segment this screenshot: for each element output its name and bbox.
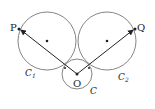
intersection-dot-left <box>64 67 66 69</box>
vector-oq <box>77 30 133 74</box>
label-c2: C2 <box>118 72 129 83</box>
intersection-dot-right <box>88 67 90 69</box>
point-o-dot <box>76 73 79 76</box>
label-c1: C1 <box>25 68 36 79</box>
center-dot-c2 <box>106 40 109 43</box>
label-o: O <box>73 78 81 89</box>
label-p: P <box>10 22 17 33</box>
geometry-diagram: P Q O C1 C2 C <box>0 0 155 109</box>
label-c: C <box>90 86 97 96</box>
point-p-dot <box>18 28 21 31</box>
label-q: Q <box>137 22 145 33</box>
center-dot-c1 <box>46 40 49 43</box>
